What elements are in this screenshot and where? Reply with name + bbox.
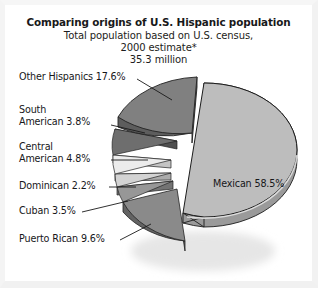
pie-label-cuban: Cuban 3.5% xyxy=(19,205,76,217)
pie-label-dominican: Dominican 2.2% xyxy=(19,180,96,192)
leader-line-puerto-rican xyxy=(120,224,151,240)
pie-label-puerto-rican: Puerto Rican 9.6% xyxy=(19,233,105,245)
pie-label-other-hispanics: Other Hispanics 17.6% xyxy=(19,71,126,83)
pie-slice-mexican[interactable] xyxy=(183,83,297,227)
chart-figure: Comparing origins of U.S. Hispanic popul… xyxy=(0,0,318,288)
pie-label-south-american: South American 3.8% xyxy=(19,104,90,127)
pie-label-central-american: Central American 4.8% xyxy=(19,141,90,164)
leader-line-cuban xyxy=(82,201,128,212)
pie-label-mexican: Mexican 58.5% xyxy=(213,178,284,189)
pie-drop-shadow xyxy=(131,231,275,271)
pie-slice-central-american[interactable] xyxy=(113,155,171,174)
